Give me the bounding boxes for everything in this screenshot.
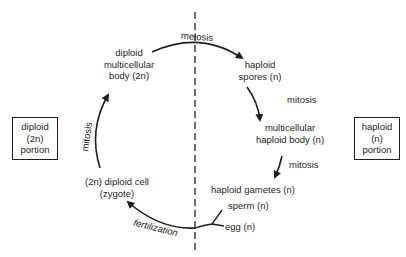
diploid-portion-line-2: (2n) <box>18 133 52 145</box>
node-zygote: (2n) diploid cell (zygote) <box>72 176 162 199</box>
zygote-line-1: (2n) diploid cell <box>72 176 162 188</box>
node-haploid-spores: haploid spores (n) <box>235 59 285 82</box>
haploid-portion-line-1: haploid <box>360 121 394 133</box>
mitosis-arrow-zygote <box>96 95 109 168</box>
spores-line-1: haploid <box>235 59 285 71</box>
mitosis-arrow-spores <box>247 87 260 120</box>
spores-line-2: spores (n) <box>235 71 285 83</box>
diploid-portion-box: diploid (2n) portion <box>12 117 58 160</box>
mitosis-arrow-body <box>275 156 282 177</box>
gamete-fork <box>196 210 224 228</box>
label-mitosis-spores: mitosis <box>287 94 317 106</box>
haploid-portion-line-2: (n) <box>360 133 394 145</box>
node-haploid-body: multicellular haploid body (n) <box>250 122 330 145</box>
haploid-body-line-1: multicellular <box>250 122 330 134</box>
label-mitosis-body: mitosis <box>289 159 319 171</box>
diploid-portion-line-3: portion <box>18 144 52 156</box>
node-sperm: sperm (n) <box>228 200 269 212</box>
node-diploid-body: diploid multicellular body (2n) <box>94 47 164 82</box>
diploid-body-line-3: body (2n) <box>94 70 164 82</box>
node-egg: egg (n) <box>225 221 255 233</box>
diploid-portion-line-1: diploid <box>18 121 52 133</box>
label-meiosis: meiosis <box>181 30 214 44</box>
haploid-body-line-2: haploid body (n) <box>250 134 330 146</box>
zygote-line-2: (zygote) <box>72 188 162 200</box>
diploid-body-line-1: diploid <box>94 47 164 59</box>
haploid-portion-box: haploid (n) portion <box>354 117 400 160</box>
haploid-portion-line-3: portion <box>360 144 394 156</box>
diploid-body-line-2: multicellular <box>94 59 164 71</box>
meiosis-arrow <box>152 42 242 58</box>
node-haploid-gametes: haploid gametes (n) <box>211 184 295 196</box>
